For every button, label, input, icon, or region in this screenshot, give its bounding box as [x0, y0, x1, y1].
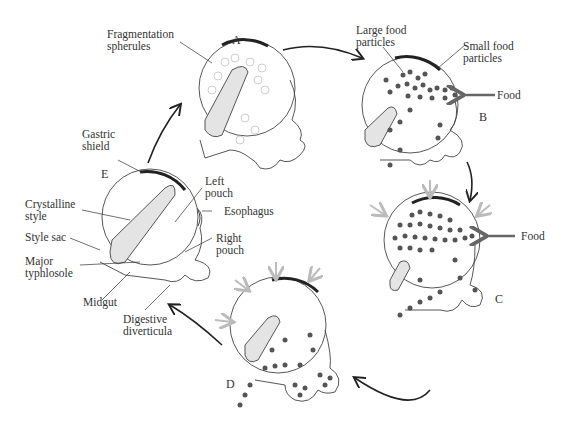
label-line: Right: [216, 232, 244, 244]
label-line: Small food: [463, 40, 514, 52]
label-line: diverticula: [123, 325, 172, 337]
label-line: Crystalline: [25, 198, 75, 210]
label-line: Major: [25, 255, 73, 267]
label-line: Fragmentation: [107, 28, 174, 40]
label-major-typhlosole: Major typhlosole: [25, 255, 73, 279]
label-line: typhlosole: [25, 267, 73, 279]
label-small-food-particles: Small food particles: [463, 40, 514, 64]
label-midgut: Midgut: [83, 296, 117, 308]
label-style-sac: Style sac: [25, 231, 66, 243]
label-line: style: [25, 210, 75, 222]
stage-c-stomach: [384, 192, 482, 318]
label-food-b: Food: [497, 89, 521, 101]
stage-label-c: C: [495, 292, 503, 307]
label-line: spherules: [107, 40, 174, 52]
stage-b-stomach: [362, 57, 462, 168]
label-right-pouch: Right pouch: [216, 232, 244, 256]
stage-e-stomach: [100, 169, 210, 282]
label-food-c: Food: [521, 230, 545, 242]
stage-a-stomach: [199, 40, 305, 169]
label-line: particles: [356, 36, 407, 48]
label-gastric-shield: Gastric shield: [82, 128, 115, 152]
label-line: Left: [205, 175, 233, 187]
stage-label-a: A: [232, 33, 241, 48]
label-fragmentation-spherules: Fragmentation spherules: [107, 28, 174, 52]
label-line: Large food: [356, 24, 407, 36]
label-line: Digestive: [123, 313, 172, 325]
label-digestive-diverticula: Digestive diverticula: [123, 313, 172, 337]
cycle-arrows: [148, 46, 472, 400]
bivalve-stomach-cycle-diagram: [0, 0, 569, 428]
label-line: pouch: [216, 244, 244, 256]
stage-label-b: B: [479, 110, 487, 125]
label-line: particles: [463, 52, 514, 64]
label-esophagus: Esophagus: [224, 205, 274, 217]
label-crystalline-style: Crystalline style: [25, 198, 75, 222]
stage-label-e: E: [101, 167, 108, 182]
stage-d-stomach: [230, 277, 339, 408]
stage-label-d: D: [226, 377, 235, 392]
label-large-food-particles: Large food particles: [356, 24, 407, 48]
label-line: pouch: [205, 187, 233, 199]
label-left-pouch: Left pouch: [205, 175, 233, 199]
label-line: shield: [82, 140, 115, 152]
label-line: Gastric: [82, 128, 115, 140]
